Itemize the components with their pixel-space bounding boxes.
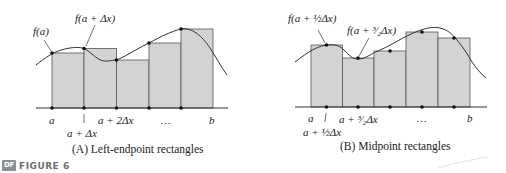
axis-label-a-plus-dx: a + Δx — [67, 127, 97, 139]
panel-left-endpoint: f(a) f(a + Δx) a a + Δx a + 2Δx … b (A) … — [33, 12, 228, 156]
rectangle-2 — [84, 49, 117, 109]
leader-line-a-half-dx — [325, 113, 326, 122]
axis-label-ellipsis: … — [160, 114, 171, 126]
rectangles — [311, 32, 470, 107]
axis-label-a: a — [308, 112, 314, 124]
rectangle-5 — [438, 38, 470, 107]
rectangle-4 — [406, 32, 438, 107]
axis-label-a-plus-half-dx: a + ½Δx — [303, 126, 341, 138]
leader-line-f-half — [318, 30, 325, 43]
rectangle-4 — [149, 43, 181, 108]
rectangle-1 — [311, 45, 343, 107]
rectangle-2 — [343, 58, 375, 107]
df-badge-icon: DF — [2, 160, 16, 171]
leader-line-fa-dx — [86, 25, 95, 46]
axis-label-a-plus-three-halves-dx: a + ³⁄₂Δx — [339, 113, 378, 125]
leader-line-fa — [44, 40, 51, 51]
rectangles — [52, 29, 213, 108]
axis-label-b: b — [467, 112, 473, 124]
caption-a: (A) Left-endpoint rectangles — [72, 143, 204, 156]
caption-b: (B) Midpoint rectangles — [340, 140, 451, 153]
label-f-a-plus-three-halves-dx: f(a + ³⁄₂Δx) — [347, 24, 396, 37]
figure-number: FIGURE 6 — [19, 161, 70, 171]
label-f-a-plus-dx: f(a + Δx) — [75, 12, 115, 25]
axis-label-ellipsis: … — [416, 112, 427, 124]
page-curl-artifact — [438, 157, 487, 168]
leader-line-f-three-halves — [359, 38, 369, 56]
axis-label-a: a — [49, 114, 55, 126]
figure-canvas: f(a) f(a + Δx) a a + Δx a + 2Δx … b (A) … — [0, 0, 506, 173]
label-f-a: f(a) — [33, 25, 49, 38]
figure-label: DF FIGURE 6 — [2, 160, 70, 171]
axis-label-a-plus-2dx: a + 2Δx — [98, 114, 133, 126]
label-f-a-plus-half-dx: f(a + ½Δx) — [288, 12, 337, 25]
axis-label-b: b — [209, 114, 215, 126]
panel-midpoint: f(a + ½Δx) f(a + ³⁄₂Δx) a a + ½Δx a + ³⁄… — [288, 12, 487, 153]
rectangle-3 — [117, 60, 150, 108]
rectangle-3 — [374, 51, 406, 107]
rectangle-5 — [181, 29, 213, 108]
rectangle-1 — [52, 53, 84, 108]
